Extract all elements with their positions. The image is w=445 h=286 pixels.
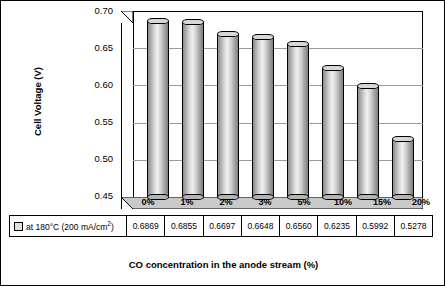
bar-body-1: [182, 22, 204, 197]
legend-swatch-icon: [14, 222, 23, 231]
value-cell-1: 0.6855: [165, 216, 203, 237]
bar-body-6: [357, 86, 379, 197]
bar-body-4: [287, 44, 309, 197]
bar-5: [322, 68, 344, 197]
x-tick-label-4: 5%: [284, 197, 324, 207]
gridline-0.55: [133, 123, 423, 124]
bar-0: [147, 21, 169, 197]
y-axis-title: Cell Voltage (V): [32, 22, 43, 182]
y-tick-label-0.60: 0.60: [79, 79, 113, 90]
legend-label-suffix: ): [111, 222, 114, 232]
x-tick-label-5: 10%: [323, 197, 363, 207]
gridline-0.65: [133, 48, 423, 49]
x-tick-label-6: 15%: [362, 197, 402, 207]
value-cell-7: 0.5278: [394, 216, 432, 237]
x-tick-label-7: 20%: [401, 197, 441, 207]
value-cell-2: 0.6697: [203, 216, 241, 237]
plot-side-wall: [121, 23, 133, 209]
x-tick-label-0: 0%: [128, 197, 168, 207]
bar-4: [287, 44, 309, 197]
value-cell-3: 0.6648: [241, 216, 279, 237]
bar-top-0: [147, 18, 169, 24]
value-cell-5: 0.6235: [318, 216, 356, 237]
bar-body-2: [217, 34, 239, 197]
bar-top-4: [287, 41, 309, 47]
y-tick-label-0.65: 0.65: [79, 42, 113, 53]
x-tick-label-2: 2%: [206, 197, 246, 207]
bar-top-5: [322, 65, 344, 71]
plot-area: [121, 11, 423, 209]
bar-body-0: [147, 21, 169, 197]
legend-entry: at 180°C (200 mA/cm2): [10, 216, 127, 237]
table-row: at 180°C (200 mA/cm2) 0.6869 0.6855 0.66…: [10, 216, 433, 237]
y-tick-label-0.70: 0.70: [79, 5, 113, 16]
gridline-0.60: [133, 85, 423, 86]
bar-body-5: [322, 68, 344, 197]
plot-back-wall: [133, 11, 423, 197]
gridline-0.50: [133, 160, 423, 161]
data-table: at 180°C (200 mA/cm2) 0.6869 0.6855 0.66…: [9, 215, 433, 237]
value-cell-6: 0.5992: [356, 216, 394, 237]
bar-6: [357, 86, 379, 197]
bar-top-3: [252, 34, 274, 40]
value-cell-4: 0.6560: [280, 216, 318, 237]
x-tick-labels: 0% 1% 2% 3% 5% 10% 15% 20%: [9, 197, 433, 213]
value-cell-0: 0.6869: [127, 216, 165, 237]
bar-1: [182, 22, 204, 197]
legend-label-prefix: at 180°C (200 mA/cm: [26, 222, 107, 232]
y-tick-label-0.55: 0.55: [79, 116, 113, 127]
bar-top-1: [182, 19, 204, 25]
bar-7: [392, 139, 414, 197]
x-axis-title: CO concentration in the anode stream (%): [1, 259, 445, 270]
bar-top-6: [357, 83, 379, 89]
bar-top-7: [392, 136, 414, 142]
bar-2: [217, 34, 239, 197]
bar-3: [252, 37, 274, 197]
y-tick-label-0.50: 0.50: [79, 153, 113, 164]
bar-body-7: [392, 139, 414, 197]
bar-top-2: [217, 31, 239, 37]
x-tick-label-3: 3%: [245, 197, 285, 207]
chart-container: Cell Voltage (V) 0.70 0.65 0.60 0.55 0.5…: [0, 0, 445, 286]
x-tick-label-1: 1%: [167, 197, 207, 207]
bar-body-3: [252, 37, 274, 197]
